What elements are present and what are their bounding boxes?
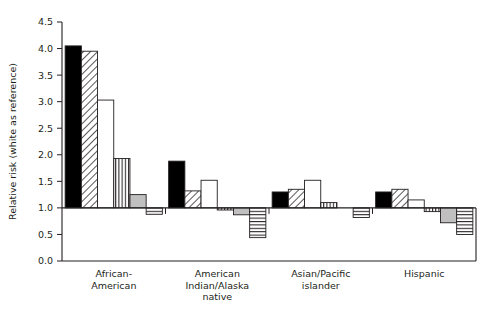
x-category-label-3-line-2: islander: [302, 280, 340, 291]
y-tick-label-2.0: 2.0: [38, 149, 53, 160]
bar-2-2: [185, 191, 201, 208]
bar-2-6: [250, 208, 266, 238]
relative-risk-bar-chart: 0.00.51.01.52.02.53.03.54.04.5 African-A…: [0, 0, 485, 316]
bar-4-3: [408, 200, 424, 208]
bar-2-5: [233, 208, 249, 215]
bar-1-1: [65, 46, 81, 208]
y-tick-label-1.5: 1.5: [38, 176, 53, 187]
y-tick-label-4.0: 4.0: [38, 43, 53, 54]
y-tick-label-2.5: 2.5: [38, 123, 53, 134]
y-axis-title-text: Relative risk (white as reference): [7, 63, 18, 220]
y-tick-label-1.0: 1.0: [38, 202, 53, 213]
x-category-label-2-line-3: native: [202, 291, 232, 302]
x-category-label-3-line-1: Asian/Pacific: [291, 268, 350, 279]
figure-container: 0.00.51.01.52.02.53.03.54.04.5 African-A…: [0, 0, 485, 316]
bar-1-6: [146, 208, 162, 214]
y-tick-label-3.0: 3.0: [38, 96, 53, 107]
bar-3-3: [305, 180, 321, 208]
bar-1-2: [81, 51, 97, 208]
bar-3-6: [353, 208, 369, 218]
bar-4-2: [392, 189, 408, 208]
y-axis-title: Relative risk (white as reference): [7, 63, 18, 220]
bar-3-1: [272, 192, 288, 208]
x-category-label-1-line-2: American: [91, 280, 136, 291]
bar-4-5: [440, 208, 456, 223]
x-category-label-2-line-1: American: [195, 268, 240, 279]
x-category-label-1-line-1: African-: [96, 268, 133, 279]
bar-4-6: [457, 208, 473, 235]
bar-3-4: [321, 203, 337, 208]
bar-4-1: [376, 192, 392, 208]
bar-1-4: [114, 159, 130, 208]
bar-1-5: [130, 195, 146, 208]
x-category-label-4-line-1: Hispanic: [404, 268, 444, 279]
y-tick-label-0.0: 0.0: [38, 255, 53, 266]
x-category-label-2-line-2: Indian/Alaska: [185, 280, 249, 291]
bar-2-1: [169, 161, 185, 208]
y-tick-label-3.5: 3.5: [38, 70, 53, 81]
y-tick-label-0.5: 0.5: [38, 229, 53, 240]
y-tick-label-4.5: 4.5: [38, 16, 53, 27]
bar-2-3: [201, 180, 217, 208]
bar-1-3: [98, 100, 114, 208]
bar-3-2: [288, 189, 304, 208]
